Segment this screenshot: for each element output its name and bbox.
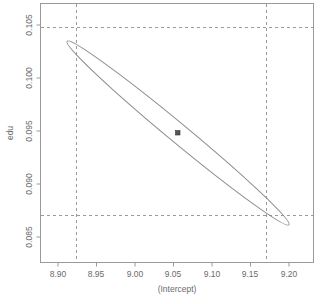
x-tick-label-920: 9.20 xyxy=(281,269,298,279)
x-tick-label-910: 9.10 xyxy=(204,269,221,279)
y-tick-label-0085: 0.085 xyxy=(24,226,34,248)
x-axis-title: (Intercept) xyxy=(158,284,197,294)
y-tick-label-0095: 0.095 xyxy=(24,120,34,142)
x-axis-ticks xyxy=(58,263,289,267)
x-tick-label-895: 8.95 xyxy=(88,269,105,279)
x-tick-label-905: 9.05 xyxy=(165,269,182,279)
y-tick-label-0105: 0.105 xyxy=(24,14,34,36)
center-point-marker xyxy=(176,131,180,135)
x-axis-tick-labels: 8.90 8.95 9.00 9.05 9.10 9.15 9.20 xyxy=(50,269,298,279)
y-tick-label-0090: 0.090 xyxy=(24,173,34,195)
confidence-ellipse-plot: 0.085 0.090 0.095 0.100 0.105 edu 8.90 8… xyxy=(0,0,324,304)
y-axis-title: edu xyxy=(5,126,15,140)
y-tick-label-0100: 0.100 xyxy=(24,67,34,89)
y-axis-ticks xyxy=(37,25,41,237)
plot-canvas: 0.085 0.090 0.095 0.100 0.105 edu 8.90 8… xyxy=(0,0,324,304)
x-tick-label-890: 8.90 xyxy=(50,269,67,279)
x-tick-label-900: 9.00 xyxy=(127,269,144,279)
y-axis-tick-labels: 0.085 0.090 0.095 0.100 0.105 xyxy=(24,14,34,248)
x-tick-label-915: 9.15 xyxy=(242,269,259,279)
